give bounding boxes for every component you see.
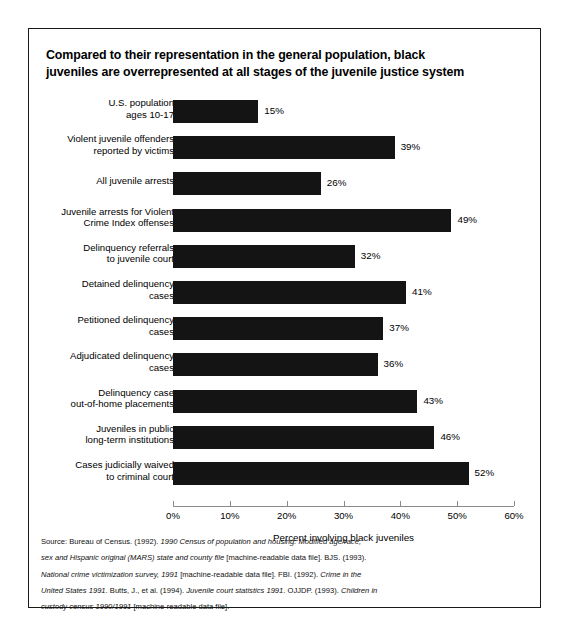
bar — [173, 426, 434, 449]
category-label-line: Crime Index offenses — [14, 217, 174, 229]
category-label: All juvenile arrests — [14, 169, 174, 187]
x-axis-tick-label: 40% — [380, 510, 420, 521]
x-axis-line — [173, 506, 514, 507]
category-label-line: ages 10-17 — [14, 109, 174, 121]
category-label-line: to criminal court — [14, 471, 174, 483]
bar-value-label: 52% — [475, 467, 495, 478]
category-label: Cases judicially waivedto criminal court — [14, 459, 174, 482]
category-label: Juvenile arrests for ViolentCrime Index … — [14, 206, 174, 229]
x-axis-tick — [287, 501, 288, 506]
bar — [173, 462, 469, 485]
category-label: Juveniles in publiclong-term institution… — [14, 423, 174, 446]
chart-row: Juveniles in publiclong-term institution… — [29, 423, 542, 459]
x-axis-tick-label: 30% — [324, 510, 364, 521]
source-line-3: National crime victimization survey, 199… — [41, 567, 529, 583]
category-label-line: Cases judicially waived — [14, 459, 174, 471]
bar-value-label: 32% — [361, 250, 381, 261]
bar-value-label: 43% — [423, 395, 443, 406]
chart-title: Compared to their representation in the … — [46, 47, 516, 81]
source-line-5: custody census 1990/1991 [machine-readab… — [41, 599, 529, 615]
x-axis-tick — [400, 501, 401, 506]
chart-row: Adjudicated delinquencycases36% — [29, 350, 542, 386]
x-axis-tick-label: 60% — [494, 510, 534, 521]
chart-row: Petitioned delinquencycases37% — [29, 314, 542, 350]
x-axis-tick — [344, 501, 345, 506]
bar — [173, 317, 383, 340]
chart-row: All juvenile arrests26% — [29, 169, 542, 205]
bar — [173, 390, 417, 413]
category-label-line: Juveniles in public — [14, 423, 174, 435]
bar-value-label: 15% — [264, 105, 284, 116]
category-label-line: Delinquency case — [14, 387, 174, 399]
x-axis-tick — [457, 501, 458, 506]
category-label-line: out-of-home placements — [14, 398, 174, 410]
category-label-line: Detained delinquency — [14, 278, 174, 290]
figure-frame: Compared to their representation in the … — [28, 28, 541, 608]
source-line-1: Source: Bureau of Census. (1992). 1990 C… — [41, 534, 529, 550]
bar-value-label: 26% — [327, 177, 347, 188]
category-label-line: cases — [14, 326, 174, 338]
source-notes: Source: Bureau of Census. (1992). 1990 C… — [41, 534, 529, 615]
category-label: Petitioned delinquencycases — [14, 314, 174, 337]
bar-value-label: 46% — [440, 431, 460, 442]
chart-row: Delinquency referralsto juvenile court32… — [29, 242, 542, 278]
x-axis-tick — [230, 501, 231, 506]
category-label: U.S. populationages 10-17 — [14, 97, 174, 120]
chart-row: Juvenile arrests for ViolentCrime Index … — [29, 206, 542, 242]
category-label: Adjudicated delinquencycases — [14, 350, 174, 373]
category-label-line: Violent juvenile offenders — [14, 133, 174, 145]
source-line-4: United States 1991. Butts, J., et al. (1… — [41, 583, 529, 599]
chart-row: Delinquency caseout-of-home placements43… — [29, 387, 542, 423]
x-axis-tick-label: 0% — [153, 510, 193, 521]
category-label-line: Adjudicated delinquency — [14, 350, 174, 362]
bar-value-label: 39% — [401, 141, 421, 152]
plot-area: U.S. populationages 10-1715%Violent juve… — [29, 91, 542, 506]
bar-value-label: 41% — [412, 286, 432, 297]
bar-value-label: 49% — [457, 214, 477, 225]
chart-title-line-2: juveniles are overrepresented at all sta… — [46, 64, 516, 81]
bar-value-label: 37% — [389, 322, 409, 333]
category-label: Delinquency referralsto juvenile court — [14, 242, 174, 265]
bar-value-label: 36% — [384, 358, 404, 369]
bar — [173, 281, 406, 304]
bar — [173, 353, 378, 376]
category-label-line: Delinquency referrals — [14, 242, 174, 254]
category-label: Delinquency caseout-of-home placements — [14, 387, 174, 410]
chart-row: Detained delinquencycases41% — [29, 278, 542, 314]
chart-row: Cases judicially waivedto criminal court… — [29, 459, 542, 495]
category-label-line: cases — [14, 362, 174, 374]
bar — [173, 245, 355, 268]
bar — [173, 136, 395, 159]
category-label: Violent juvenile offendersreported by vi… — [14, 133, 174, 156]
chart-row: Violent juvenile offendersreported by vi… — [29, 133, 542, 169]
bar — [173, 172, 321, 195]
category-label: Detained delinquencycases — [14, 278, 174, 301]
category-label-line: All juvenile arrests — [14, 175, 174, 187]
bar — [173, 100, 258, 123]
category-label-line: cases — [14, 290, 174, 302]
chart-title-line-1: Compared to their representation in the … — [46, 47, 516, 64]
bar — [173, 209, 451, 232]
x-axis-tick-label: 20% — [267, 510, 307, 521]
x-axis-tick-label: 50% — [437, 510, 477, 521]
source-line-2: sex and Hispanic original (MARS) state a… — [41, 550, 529, 566]
x-axis-tick — [514, 501, 515, 506]
category-label-line: U.S. population — [14, 97, 174, 109]
x-axis-tick-label: 10% — [210, 510, 250, 521]
category-label-line: long-term institutions — [14, 434, 174, 446]
category-label-line: Petitioned delinquency — [14, 314, 174, 326]
category-label-line: reported by victims — [14, 145, 174, 157]
chart-row: U.S. populationages 10-1715% — [29, 97, 542, 133]
x-axis-tick — [173, 501, 174, 506]
category-label-line: to juvenile court — [14, 253, 174, 265]
category-label-line: Juvenile arrests for Violent — [14, 206, 174, 218]
